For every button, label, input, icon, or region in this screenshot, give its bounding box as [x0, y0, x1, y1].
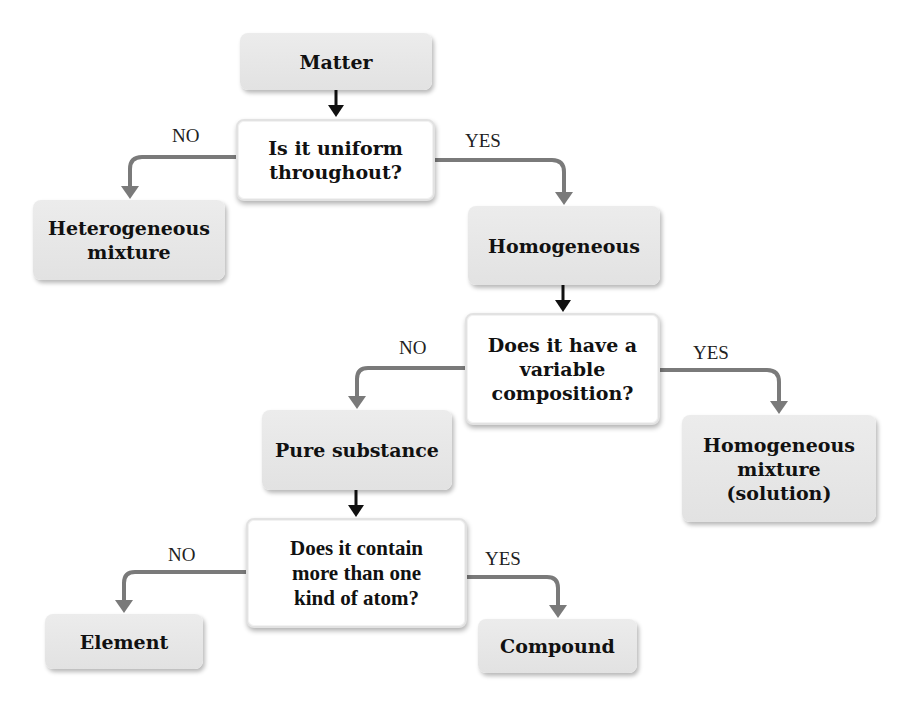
arrow-atoms-yes-to-compound — [467, 577, 567, 618]
matter-classification-flowchart: Matter Is it uniform throughout? Heterog… — [0, 0, 913, 706]
arrow-homogeneous-to-variable-question — [555, 285, 571, 312]
edge-label-variable-no: NO — [399, 337, 426, 359]
node-pure-substance: Pure substance — [262, 410, 452, 490]
node-matter: Matter — [240, 33, 432, 90]
arrow-pure-substance-to-atoms-question — [348, 490, 364, 517]
node-homogeneous: Homogeneous — [468, 206, 660, 285]
edge-label-uniform-no: NO — [172, 125, 199, 147]
arrow-variable-no-to-pure-substance — [348, 368, 465, 409]
arrow-uniform-no-to-heterogeneous — [121, 157, 236, 199]
edge-label-atoms-no: NO — [168, 544, 195, 566]
node-heterogeneous-mixture: Heterogeneous mixture — [33, 200, 225, 280]
node-question-more-than-one-atom: Does it contain more than one kind of at… — [246, 518, 467, 628]
edge-label-atoms-yes: YES — [485, 548, 521, 570]
edge-label-variable-yes: YES — [693, 342, 729, 364]
arrow-matter-to-uniform-question — [328, 90, 344, 117]
arrow-uniform-yes-to-homogeneous — [435, 160, 573, 205]
node-question-uniform-throughout: Is it uniform throughout? — [236, 119, 435, 201]
edge-label-uniform-yes: YES — [465, 130, 501, 152]
node-element: Element — [45, 614, 203, 669]
arrow-atoms-no-to-element — [115, 572, 246, 613]
node-homogeneous-mixture-solution: Homogeneous mixture (solution) — [682, 415, 876, 522]
arrow-variable-yes-to-homogeneous-mixture — [660, 370, 788, 414]
node-question-variable-composition: Does it have a variable composition? — [465, 313, 660, 425]
node-compound: Compound — [478, 619, 637, 673]
